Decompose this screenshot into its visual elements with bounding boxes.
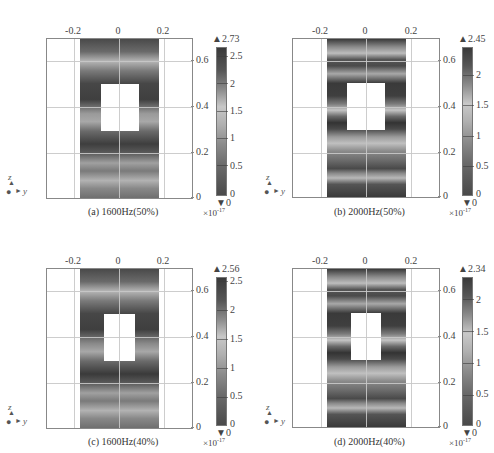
axes-orientation-icon: z ▲ ● ► y — [4, 172, 34, 202]
gridline — [47, 107, 192, 108]
gridline — [366, 269, 367, 427]
x-tick: 0 — [363, 255, 368, 266]
y-tick: 0.6 — [443, 284, 456, 295]
colorbar-tick: 1 — [230, 362, 235, 373]
colorbar-max: ▲2.56 — [212, 263, 239, 274]
gridline — [293, 383, 439, 384]
colorbar — [462, 47, 473, 196]
gridline — [47, 337, 192, 338]
gridline — [293, 153, 439, 154]
axes-orientation-icon: z ▲ ● ► y — [4, 402, 34, 432]
colorbar-tick: 1.5 — [476, 326, 489, 337]
y-tick: 0.2 — [443, 146, 456, 157]
gridline — [293, 291, 439, 292]
panel-caption: (a) 1600Hz(50%) — [88, 206, 158, 217]
plot-frame — [292, 268, 440, 428]
colorbar-tick: 1.5 — [476, 99, 489, 110]
x-tick: 0 — [116, 25, 121, 36]
y-tick: 0.6 — [196, 284, 209, 295]
colorbar-tick: 2.5 — [230, 275, 243, 286]
colorbar-tick: 1.5 — [230, 333, 243, 344]
y-tick: 0.4 — [196, 330, 209, 341]
panel-a: -0.2 0 0.2 0.6 0.4 0.2 0 ▲2.73 2.5 2 1.5… — [0, 0, 247, 226]
panel-caption: (c) 1600Hz(40%) — [88, 436, 158, 447]
x-tick: -0.2 — [312, 25, 328, 36]
y-tick: 0.4 — [443, 100, 456, 111]
x-tick: 0.2 — [405, 255, 418, 266]
x-tick: -0.2 — [65, 25, 81, 36]
colorbar-tick: 2 — [230, 78, 235, 89]
gridline — [47, 291, 192, 292]
y-tick: 0 — [196, 191, 201, 202]
panel-caption: (b) 2000Hz(50%) — [334, 206, 405, 217]
colorbar-tick: 1.5 — [230, 105, 243, 116]
colorbar-exponent: ×10-17 — [449, 207, 471, 218]
gridline — [321, 39, 322, 197]
gridline — [411, 269, 412, 427]
colorbar-exponent: ×10-17 — [203, 207, 225, 218]
y-tick: 0.2 — [196, 376, 209, 387]
colorbar-max: ▲2.73 — [212, 33, 239, 44]
gridline — [47, 61, 192, 62]
colorbar — [216, 47, 227, 196]
y-tick: 0 — [443, 190, 448, 201]
panel-caption: (d) 2000Hz(40%) — [334, 436, 405, 447]
y-tick: 0 — [443, 420, 448, 431]
colorbar-tick: 1 — [476, 130, 481, 141]
y-tick: 0.4 — [196, 100, 209, 111]
colorbar — [462, 277, 473, 426]
colorbar — [216, 277, 227, 426]
x-tick: 0.2 — [405, 25, 418, 36]
colorbar-tick: 0.5 — [230, 390, 243, 401]
x-tick: 0.2 — [157, 255, 170, 266]
colorbar-max: ▲2.34 — [458, 263, 485, 274]
y-tick: 0.2 — [196, 146, 209, 157]
colorbar-tick: 1 — [230, 132, 235, 143]
y-tick: 0 — [196, 421, 201, 432]
gridline — [47, 153, 192, 154]
gridline — [321, 269, 322, 427]
gridline — [119, 39, 120, 198]
colorbar-tick: 2 — [476, 294, 481, 305]
y-tick: 0.6 — [196, 54, 209, 65]
colorbar-tick: 0.5 — [230, 160, 243, 171]
gridline — [164, 269, 165, 428]
plot-frame — [46, 38, 193, 199]
gridline — [119, 269, 120, 428]
gridline — [293, 107, 439, 108]
panel-b: -0.2 0 0.2 0.6 0.4 0.2 0 ▲2.45 2 1.5 1 0… — [250, 0, 494, 226]
colorbar-max: ▲2.45 — [458, 33, 485, 44]
plot-frame — [46, 268, 193, 429]
x-tick: 0 — [363, 25, 368, 36]
colorbar-tick: 2 — [230, 304, 235, 315]
panel-c: -0.2 0 0.2 0.6 0.4 0.2 0 ▲2.56 2.5 2 1.5… — [0, 230, 247, 453]
colorbar-tick: 0.5 — [476, 388, 489, 399]
gridline — [47, 383, 192, 384]
y-tick: 0.2 — [443, 376, 456, 387]
y-tick: 0.4 — [443, 330, 456, 341]
gridline — [411, 39, 412, 197]
gridline — [366, 39, 367, 197]
plot-frame — [292, 38, 440, 198]
colorbar-tick: 1 — [476, 357, 481, 368]
axes-orientation-icon: z ▲ ● ► y — [262, 402, 292, 432]
axes-orientation-icon: z ▲ ● ► y — [262, 172, 292, 202]
panel-d: -0.2 0 0.2 0.6 0.4 0.2 0 ▲2.34 2 1.5 1 0… — [250, 230, 494, 453]
colorbar-tick: 0.5 — [476, 160, 489, 171]
x-tick: -0.2 — [65, 255, 81, 266]
colorbar-tick: 2 — [476, 69, 481, 80]
gridline — [293, 61, 439, 62]
gridline — [74, 269, 75, 428]
x-tick: -0.2 — [312, 255, 328, 266]
gridline — [293, 337, 439, 338]
colorbar-exponent: ×10-17 — [449, 437, 471, 448]
x-tick: 0 — [116, 255, 121, 266]
colorbar-exponent: ×10-17 — [203, 437, 225, 448]
gridline — [164, 39, 165, 198]
y-tick: 0.6 — [443, 54, 456, 65]
gridline — [74, 39, 75, 198]
colorbar-tick: 2.5 — [230, 50, 243, 61]
x-tick: 0.2 — [157, 25, 170, 36]
